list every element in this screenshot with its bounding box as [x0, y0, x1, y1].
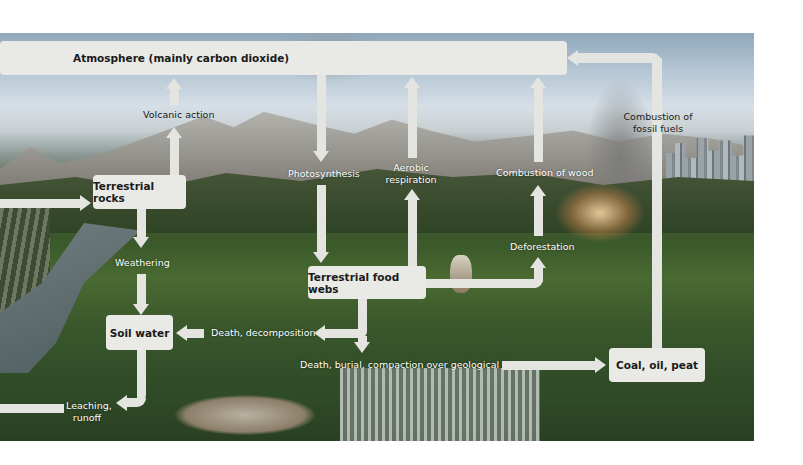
- photosynthesis-label: Photosynthesis: [288, 168, 360, 180]
- wood-arrow-upper: [534, 88, 543, 162]
- volcanic-label: Volcanic action: [143, 109, 214, 121]
- photosynthesis-arrowhead-upper: [313, 151, 329, 162]
- decomposition-arrowhead-left: [176, 325, 187, 341]
- burial-arrowhead: [595, 357, 606, 373]
- deforestation-feed-arrowhead: [530, 257, 546, 268]
- dead-fox: [175, 395, 315, 435]
- volcanic-arrowhead-upper: [166, 78, 182, 89]
- fossil-label: Combustion of fossil fuels: [620, 111, 696, 135]
- volcanic-arrow-lower: [170, 137, 179, 175]
- burial-arrowhead-down: [354, 342, 370, 353]
- volcanic-arrow-upper: [170, 89, 179, 105]
- respiration-arrow-lower: [408, 200, 417, 266]
- leaching-arrowhead: [116, 395, 127, 411]
- combustion-wood-label: Combustion of wood: [496, 167, 594, 179]
- respiration-label: Aerobic respiration: [384, 162, 438, 186]
- respiration-arrowhead-upper: [404, 77, 420, 88]
- atmosphere-label: Atmosphere (mainly carbon dioxide): [73, 52, 289, 64]
- wood-arrowhead-upper: [530, 77, 546, 88]
- decomposition-label: Death, decomposition: [211, 327, 316, 339]
- photosynthesis-arrowhead-lower: [313, 252, 329, 263]
- weathering-arrow-upper: [137, 209, 146, 237]
- coal-oil-peat-box: Coal, oil, peat: [609, 348, 705, 382]
- burial-label: Death, burial, compaction over geologica…: [300, 359, 524, 371]
- weathering-arrowhead-upper: [133, 237, 149, 248]
- volcanic-arrowhead-lower: [166, 127, 182, 138]
- burial-arrow: [502, 361, 596, 370]
- weathering-label: Weathering: [115, 257, 170, 269]
- forest-fire: [555, 183, 645, 243]
- photosynthesis-arrow-upper: [317, 75, 326, 153]
- fossil-arrow-vertical: [652, 58, 662, 348]
- fossil-arrowhead: [567, 50, 578, 66]
- soil-water-box: Soil water: [106, 315, 173, 350]
- photosynthesis-arrow-lower: [317, 185, 326, 253]
- food-webs-box: Terrestrial food webs: [308, 266, 426, 299]
- decomposition-arrow-left: [187, 329, 204, 338]
- weathering-arrow-lower: [137, 274, 146, 304]
- respiration-arrow-upper: [408, 88, 417, 158]
- deforestation-feed-arrow: [426, 279, 543, 288]
- waterfall: [340, 368, 540, 441]
- terrestrial-rocks-box: Terrestrial rocks: [93, 175, 186, 209]
- leaching-label: Leaching, runoff: [66, 400, 108, 424]
- wood-arrowhead-lower: [530, 185, 546, 196]
- inflow-rocks-arrowhead: [80, 195, 91, 211]
- fossil-arrow-horizontal: [578, 53, 662, 63]
- weathering-arrowhead-lower: [133, 304, 149, 315]
- leaching-outflow-arrow: [0, 404, 64, 413]
- leaching-arrow-vertical: [137, 350, 146, 404]
- respiration-arrowhead-lower: [404, 189, 420, 200]
- deforestation-label: Deforestation: [510, 241, 575, 253]
- inflow-rocks-arrow: [0, 199, 80, 208]
- atmosphere-box: Atmosphere (mainly carbon dioxide): [0, 41, 567, 75]
- wood-arrow-lower: [534, 196, 543, 236]
